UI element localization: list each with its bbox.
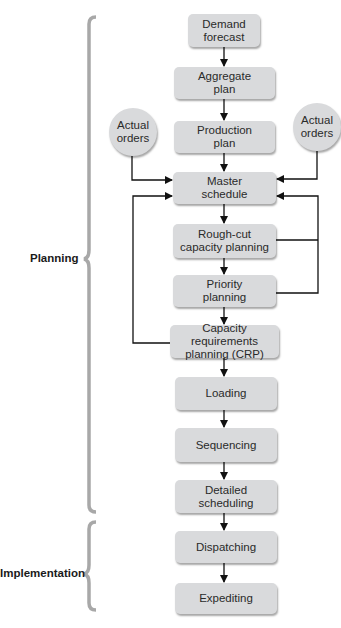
node-label: Rough-cut capacity planning	[180, 228, 269, 254]
node-dispatching: Dispatching	[175, 531, 277, 563]
phase-label-planning: Planning	[30, 252, 79, 264]
node-label: Dispatching	[196, 541, 256, 554]
node-label: Expediting	[199, 592, 253, 605]
node-loading: Loading	[175, 377, 277, 410]
node-capacity-requirements-planning: Capacity requirements planning (CRP)	[170, 325, 279, 358]
node-label: Master schedule	[201, 175, 247, 201]
node-label: Aggregate plan	[198, 70, 251, 96]
node-aggregate-plan: Aggregate plan	[174, 67, 275, 99]
node-priority-planning: Priority planning	[173, 275, 276, 307]
node-expediting: Expediting	[175, 583, 277, 614]
node-label: Detailed scheduling	[199, 484, 254, 510]
node-label: Capacity requirements planning (CRP)	[172, 322, 277, 361]
node-label: Sequencing	[196, 439, 257, 452]
node-sequencing: Sequencing	[175, 428, 277, 462]
node-production-plan: Production plan	[174, 121, 275, 153]
phase-label-implementation: Implementation	[0, 567, 85, 579]
node-label: Demand forecast	[202, 18, 245, 44]
node-label: Priority planning	[203, 278, 246, 304]
actual-orders-right: Actual orders	[293, 103, 341, 151]
node-label: Actual orders	[117, 119, 150, 145]
node-detailed-scheduling: Detailed scheduling	[175, 480, 277, 513]
node-label: Production plan	[197, 124, 252, 150]
node-label: Actual orders	[301, 114, 334, 140]
node-demand-forecast: Demand forecast	[188, 14, 260, 47]
actual-orders-left: Actual orders	[109, 108, 157, 156]
planning-brace	[84, 17, 96, 512]
node-label: Loading	[206, 387, 247, 400]
implementation-brace	[84, 522, 96, 610]
node-rough-cut-capacity-planning: Rough-cut capacity planning	[173, 224, 276, 258]
node-master-schedule: Master schedule	[173, 172, 276, 204]
